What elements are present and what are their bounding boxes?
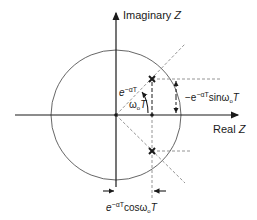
real-axis-label: Real Z (213, 124, 245, 135)
imaginary-axis-label: Imaginary Z (123, 10, 181, 21)
real-var: Z (239, 123, 246, 135)
cos-exp: −αT (112, 201, 124, 208)
angle-label: ωoT (129, 100, 146, 111)
sin-exp: −αT (196, 91, 208, 98)
angle-T: T (140, 99, 146, 110)
sin-prefix: −e (185, 92, 196, 103)
origin-dot (114, 113, 118, 117)
radius-label: e−αT (119, 86, 137, 98)
radius-exp: −αT (125, 86, 137, 93)
cos-T: T (151, 202, 157, 213)
sin-T: T (233, 92, 239, 103)
cos-func: cosω (124, 202, 147, 213)
projection-dot (150, 113, 154, 117)
sin-dimension-label: −e−αTsinωoT (185, 91, 239, 104)
sin-func: sinω (209, 92, 230, 103)
real-label-text: Real (213, 123, 236, 135)
angle-omega: ω (129, 99, 137, 110)
imaginary-label-text: Imaginary (123, 9, 171, 21)
imaginary-var: Z (174, 9, 181, 21)
cos-dimension-label: e−αTcosωoT (106, 201, 157, 214)
